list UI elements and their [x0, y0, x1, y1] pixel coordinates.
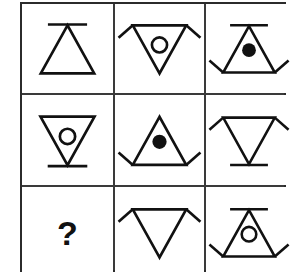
shape-up-triangle — [206, 4, 292, 93]
cell-r3c1[interactable]: ? — [22, 187, 113, 278]
shape-up-triangle — [115, 95, 204, 185]
triangle-outline — [41, 25, 94, 73]
triangle-outline — [133, 25, 186, 73]
open-circle — [242, 227, 257, 242]
wing-left — [209, 245, 223, 257]
cell-r3c2[interactable] — [115, 187, 204, 278]
cell-r2c2[interactable] — [115, 95, 204, 185]
cell-r1c2[interactable] — [115, 4, 204, 93]
wing-left — [209, 118, 223, 130]
matrix-grid: ? — [20, 2, 286, 272]
cell-r1c1[interactable] — [22, 4, 113, 93]
cell-r2c1[interactable] — [22, 95, 113, 185]
triangle-outline — [41, 117, 95, 166]
wing-left — [119, 25, 133, 37]
wing-right — [275, 118, 289, 130]
wing-left — [119, 152, 133, 164]
open-circle — [152, 37, 167, 52]
shape-up-triangle — [206, 187, 292, 278]
cell-r1c3[interactable] — [206, 4, 292, 93]
triangle-outline — [223, 118, 275, 164]
filled-dot — [152, 135, 166, 149]
open-circle — [60, 129, 75, 144]
cell-r3c3[interactable] — [206, 187, 292, 278]
wing-right — [275, 245, 289, 257]
wing-right — [186, 209, 200, 221]
shape-down-triangle — [115, 4, 204, 93]
wing-right — [275, 61, 289, 73]
shape-down-triangle — [22, 95, 113, 185]
shape-down-triangle — [115, 187, 204, 278]
cell-r2c3[interactable] — [206, 95, 292, 185]
triangle-outline — [223, 210, 275, 256]
wing-right — [186, 152, 200, 164]
wing-right — [186, 25, 200, 37]
shape-down-triangle — [206, 95, 292, 185]
triangle-outline — [133, 209, 186, 257]
filled-dot — [242, 43, 256, 57]
wing-left — [119, 209, 133, 221]
puzzle-root: ? — [0, 0, 302, 278]
shape-up-triangle — [22, 4, 113, 93]
wing-left — [209, 61, 223, 73]
missing-cell-question-mark: ? — [22, 187, 113, 278]
